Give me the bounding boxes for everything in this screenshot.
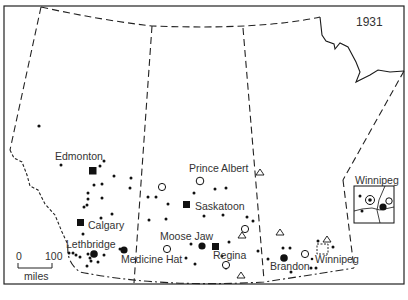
label-lethbridge: Lethbridge: [66, 238, 116, 250]
scale-bar: 0 100 miles: [16, 250, 63, 282]
label-edmonton: Edmonton: [55, 150, 103, 162]
inset-title: Winnipeg: [355, 174, 399, 186]
label-winnipeg: Winnipeg: [315, 253, 359, 265]
label-regina: Regina: [213, 249, 246, 261]
label-prince-albert: Prince Albert: [189, 162, 249, 174]
label-saskatoon: Saskatoon: [195, 200, 245, 212]
label-moose-jaw: Moose Jaw: [160, 230, 214, 242]
map-frame: [4, 6, 404, 284]
label-brandon: Brandon: [270, 260, 310, 272]
scale-end-label: 100: [45, 250, 63, 262]
scale-start-label: 0: [16, 250, 22, 262]
town-dots: [37, 124, 334, 273]
historical-map-1931: 1931: [0, 0, 408, 300]
scale-unit-label: miles: [24, 270, 49, 282]
year-label: 1931: [356, 15, 383, 29]
label-medicine-hat: Medicine Hat: [121, 253, 182, 265]
label-calgary: Calgary: [88, 219, 125, 231]
winnipeg-inset: Winnipeg: [354, 174, 399, 223]
city-labels: Edmonton Calgary Lethbridge Medicine Hat…: [55, 150, 359, 272]
